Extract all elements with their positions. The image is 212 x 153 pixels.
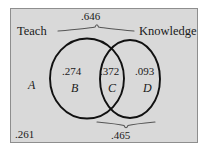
set-label-knowledge: Knowledge <box>139 25 197 38</box>
region-a-letter: A <box>28 79 35 91</box>
region-a-value: .261 <box>15 129 34 140</box>
brace-bottom-value: .465 <box>111 130 130 141</box>
venn-diagram-figure: Teach Knowledge .646 .465 .261 A .274 B … <box>0 0 212 153</box>
region-d-letter: D <box>143 82 152 94</box>
region-c-value: .372 <box>100 66 119 77</box>
region-c-letter: C <box>108 82 116 94</box>
set-label-teach: Teach <box>17 25 47 38</box>
region-b-letter: B <box>71 82 78 94</box>
region-b-value: .274 <box>62 66 81 77</box>
brace-top-value: .646 <box>81 11 100 22</box>
region-d-value: .093 <box>135 66 154 77</box>
